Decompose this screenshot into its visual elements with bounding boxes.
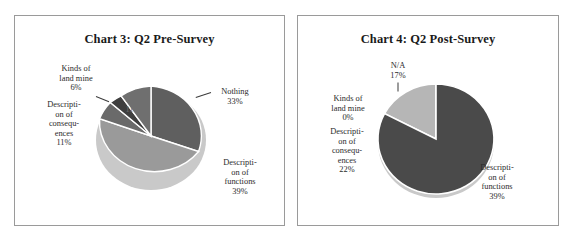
chart-3-label-consequences: Descripti- on of consequ- ences 11% [31,100,97,148]
chart-4-label-na: N/A 17% [378,61,418,80]
chart-4-leader-na [398,83,399,92]
chart-3-label-nothing: Nothing 33% [211,87,259,106]
pie-svg-3 [93,78,209,194]
chart-4-label-consequences: Descripti- on of consequ- ences 22% [316,127,378,175]
chart-3-label-na: N/A 11% [118,95,148,114]
chart-3-title: Chart 3: Q2 Pre-Survey [15,32,284,47]
chart-3-label-landmine: Kinds of land mine 6% [48,64,104,93]
chart-4-title: Chart 4: Q2 Post-Survey [298,32,558,47]
chart-3-pie [93,78,209,194]
chart-4-label-functions: Descripti- on of functions 39% [466,163,528,201]
chart-4-label-landmine: Kinds of land mine 0% [319,94,377,123]
chart-panel-4: Chart 4: Q2 Post-Survey N/A 17% Kinds of… [297,15,559,226]
chart-panel-3: Chart 3: Q2 Pre-Survey [14,15,285,226]
chart-3-label-functions: Descripti- on of functions 39% [211,158,269,196]
page-canvas: Chart 3: Q2 Pre-Survey [0,0,571,240]
